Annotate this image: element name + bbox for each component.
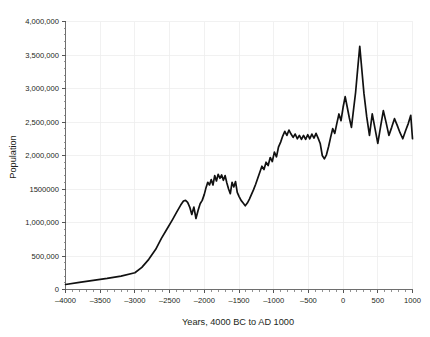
x-tick-label: 500 <box>371 296 384 305</box>
y-tick-label: 4,000,000 <box>25 17 59 26</box>
x-tick-label: 1000 <box>404 296 421 305</box>
x-axis-tick-labels: –4000–3500–3000–2500–2000–1500–1000–5000… <box>55 296 421 305</box>
x-tick-label: –3000 <box>124 296 145 305</box>
y-tick-label: 1500000 <box>29 185 59 194</box>
y-tick-label: 0 <box>55 285 59 294</box>
y-axis-tick-labels: 0500,0001,000,00015000002,000,0002,500,0… <box>25 17 59 294</box>
axis-ticks <box>62 22 413 294</box>
y-tick-label: 1,000,000 <box>25 218 59 227</box>
x-tick-label: –1500 <box>228 296 249 305</box>
x-tick-label: –4000 <box>55 296 76 305</box>
x-axis-title: Years, 4000 BC to AD 1000 <box>182 317 294 327</box>
x-tick-label: –1000 <box>263 296 284 305</box>
population-chart: 0500,0001,000,00015000002,000,0002,500,0… <box>0 0 430 337</box>
y-tick-label: 3,000,000 <box>25 84 59 93</box>
x-tick-label: –3500 <box>90 296 111 305</box>
y-tick-label: 3,500,000 <box>25 51 59 60</box>
y-tick-label: 500,000 <box>32 252 59 261</box>
x-tick-label: –2500 <box>159 296 180 305</box>
x-tick-label: –500 <box>300 296 317 305</box>
y-tick-label: 2,500,000 <box>25 118 59 127</box>
x-tick-label: 0 <box>341 296 345 305</box>
chart-canvas: 0500,0001,000,00015000002,000,0002,500,0… <box>0 0 430 337</box>
x-tick-label: –2000 <box>194 296 215 305</box>
y-axis-title: Population <box>8 135 18 178</box>
y-tick-label: 2,000,000 <box>25 151 59 160</box>
